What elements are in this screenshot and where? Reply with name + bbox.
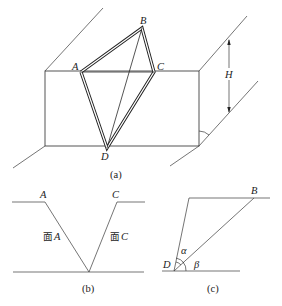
top-right-edge — [199, 16, 247, 71]
lower-slope-edge — [199, 81, 258, 146]
caption-c: (c) — [207, 283, 219, 295]
figure-b: A C 面 A 面 C (b) — [12, 189, 145, 295]
face-c-letter: C — [121, 231, 129, 242]
bottom-right-edge — [170, 146, 199, 166]
height-label: H — [224, 69, 234, 80]
point-d-label-c: D — [162, 259, 171, 270]
face-a-prefix: 面 — [43, 231, 53, 242]
caption-b: (b) — [82, 283, 95, 295]
bottom-left-edge — [13, 146, 45, 168]
caption-a: (a) — [110, 169, 122, 181]
point-b-label: B — [140, 15, 147, 26]
label-a: A — [39, 189, 47, 200]
arrow-up-icon — [227, 39, 230, 45]
point-b-label-c: B — [251, 185, 258, 196]
db-line — [174, 198, 254, 271]
label-c: C — [112, 189, 120, 200]
toe-angle-arc — [199, 131, 209, 135]
wedge-diagram: H A B C D (a) A C 面 A 面 C (b) — [0, 0, 282, 306]
point-c-label: C — [157, 61, 165, 72]
wedge — [81, 28, 154, 148]
point-d-label: D — [100, 151, 109, 162]
edge-db — [107, 28, 142, 148]
beta-label: β — [193, 259, 200, 270]
alpha-label: α — [181, 245, 187, 256]
face-a-letter: A — [53, 231, 61, 242]
point-a-label: A — [71, 61, 79, 72]
face-c-prefix: 面 — [110, 231, 120, 242]
figure-c: B D α β (c) — [162, 185, 270, 295]
front-face — [45, 71, 199, 146]
figure-a: H A B C D (a) — [13, 8, 258, 181]
alpha-arc — [176, 262, 181, 265]
beta-arc — [183, 262, 186, 271]
